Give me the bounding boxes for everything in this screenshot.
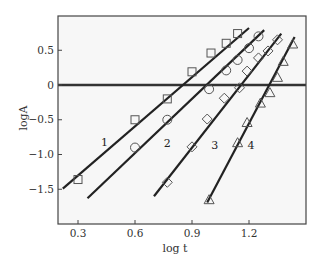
y-tick-label: −0.5: [29, 113, 55, 125]
x-tick-label: 0.3: [70, 227, 87, 239]
log-a-vs-log-t-chart: 1234 0.30.60.91.2 0.50−0.5−1.0−1.5 log t…: [0, 0, 321, 265]
y-axis: 0.50−0.5−1.0−1.5: [29, 44, 63, 195]
series-label-1: 1: [101, 136, 108, 149]
y-tick-label: 0: [47, 79, 54, 91]
x-tick-label: 0.6: [127, 227, 144, 239]
y-tick-label: −1.5: [29, 183, 55, 195]
y-tick-label: 0.5: [37, 44, 54, 56]
x-tick-label: 1.2: [241, 227, 258, 239]
series-label-3: 3: [211, 139, 218, 152]
series-label-4: 4: [247, 139, 254, 152]
series-label-2: 2: [164, 137, 171, 150]
x-tick-label: 0.9: [184, 227, 201, 239]
x-axis-title: log t: [162, 242, 188, 255]
y-tick-label: −1.0: [29, 148, 55, 160]
y-axis-title: logA: [17, 104, 30, 130]
